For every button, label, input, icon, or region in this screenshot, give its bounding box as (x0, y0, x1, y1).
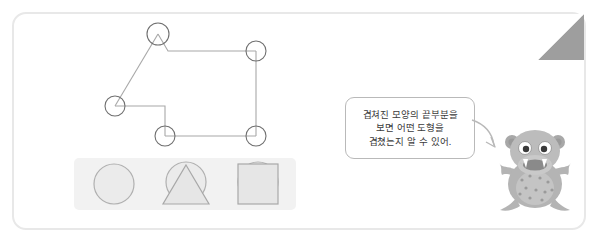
shape-option-circle-square-label: 원과 사각형 (292, 160, 293, 161)
diagram-edge-apex-to-left (115, 34, 158, 106)
hippo-monster-character (492, 118, 578, 218)
circle-triangle-icon (152, 160, 220, 208)
overlapping-shapes-diagram (88, 14, 288, 154)
shape-option-circle[interactable]: 원 (80, 160, 148, 208)
shape-option-strip: 원 원과 삼각형 원과 사각형 (74, 158, 296, 210)
speech-bubble-line-3: 겹쳤는지 알 수 있어. (369, 135, 452, 149)
circle-icon (80, 160, 148, 208)
speech-bubble: 겹쳐진 모양의 끝부분을 보면 어떤 도형을 겹쳤는지 알 수 있어. (345, 97, 475, 159)
speech-bubble-line-2: 보면 어떤 도형을 (376, 121, 444, 135)
screenshot-root: 겹쳐진 도형 찾기 활동 카드 원 (0, 0, 598, 242)
page-title: 겹쳐진 도형 찾기 활동 카드 (14, 14, 15, 15)
shape-option-circle-triangle[interactable]: 원과 삼각형 (152, 160, 220, 208)
shape-option-circle-label: 원 (148, 160, 149, 161)
diagram-edge-apex-to-square-top (158, 34, 256, 51)
shape-option-circle-triangle-label: 원과 삼각형 (220, 160, 221, 161)
page-fold-icon (524, 14, 584, 60)
circle-square-icon (224, 160, 292, 208)
speech-bubble-line-1: 겹쳐진 모양의 끝부분을 (363, 108, 458, 122)
diagram-edge-left-to-square (115, 106, 165, 136)
mascot-label: 회색 하마 캐릭터 (0, 0, 1, 1)
shape-option-circle-square[interactable]: 원과 사각형 (224, 160, 292, 208)
